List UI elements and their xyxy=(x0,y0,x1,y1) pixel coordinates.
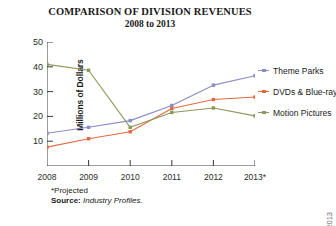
x-axis-tick-label: 2009 xyxy=(79,172,98,182)
legend-item-motion-pictures[interactable]: Motion Pictures xyxy=(258,102,334,123)
legend-item-theme-parks[interactable]: Theme Parks xyxy=(258,60,334,81)
legend-item-dvds-blue-ray[interactable]: DVDs & Blue-ray xyxy=(258,81,334,102)
source-publication: Industry Profiles. xyxy=(83,196,143,205)
legend-swatch-icon xyxy=(258,109,269,116)
x-axis-tick-label: 2011 xyxy=(163,172,181,182)
chart-canvas xyxy=(47,42,255,166)
y-axis-tick-label: 30 xyxy=(33,87,43,97)
chart-subtitle: 2008 to 2013 xyxy=(0,19,300,30)
chart-title-block: COMPARISON OF DIVISION REVENUES 2008 to … xyxy=(0,6,300,30)
x-axis-tick-label: 2012 xyxy=(204,172,223,182)
y-axis-tick-label: 10 xyxy=(33,136,43,146)
x-axis-tick-label: 2010 xyxy=(121,172,140,182)
footnote-projected: *Projected xyxy=(51,186,143,196)
y-axis-tick-label: 50 xyxy=(33,37,43,47)
legend-item-label: DVDs & Blue-ray xyxy=(273,87,336,97)
legend-item-label: Theme Parks xyxy=(273,66,324,76)
copyright-credit: © Cengage Learning 2013 xyxy=(325,212,334,226)
page-title: COMPARISON OF DIVISION REVENUES xyxy=(0,6,300,18)
chart-legend: Theme ParksDVDs & Blue-rayMotion Picture… xyxy=(258,60,334,123)
chart-footnotes: *Projected Source: Industry Profiles. xyxy=(51,186,143,206)
legend-item-label: Motion Pictures xyxy=(273,108,332,118)
y-axis-tick-label: 40 xyxy=(33,62,43,72)
y-axis-tick-label: 20 xyxy=(33,111,43,121)
legend-swatch-icon xyxy=(258,88,269,95)
plot-area: Millions of Dollars 10203040502008200920… xyxy=(47,42,255,166)
x-axis-tick-label: 2013* xyxy=(244,172,266,182)
x-axis-tick-label: 2008 xyxy=(38,172,57,182)
source-line: Source: Industry Profiles. xyxy=(51,196,143,206)
legend-swatch-icon xyxy=(258,67,269,74)
source-label: Source: xyxy=(51,196,81,205)
chart-figure: COMPARISON OF DIVISION REVENUES 2008 to … xyxy=(0,0,336,226)
